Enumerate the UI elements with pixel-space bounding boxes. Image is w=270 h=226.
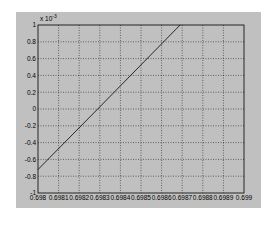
x-tick-label: 0.6983 [90, 194, 110, 201]
x-tick-label: 0.6982 [69, 194, 89, 201]
y-tick-label: -0.6 [25, 156, 37, 163]
y-tick-label: 0.4 [27, 72, 36, 79]
x-tick-label: 0.6986 [152, 194, 172, 201]
y-tick-label: -0.8 [25, 173, 37, 180]
y-tick-label: 0 [32, 105, 36, 112]
x-tick-label: 0.699 [236, 194, 253, 201]
x-tick-label: 0.6988 [193, 194, 213, 201]
grid-lines [38, 25, 244, 193]
y-tick-label: -0.4 [25, 139, 37, 146]
data-line [38, 25, 180, 170]
y-tick-label: 1 [32, 21, 36, 28]
y-tick-label: -0.2 [25, 122, 37, 129]
line-chart: -1-0.8-0.6-0.4-0.200.20.40.60.81 0.6980.… [0, 0, 270, 226]
x-tick-label: 0.6985 [131, 194, 151, 201]
x-axis-ticks: 0.6980.69810.69820.69830.69840.69850.698… [30, 194, 253, 201]
y-axis-ticks: -1-0.8-0.6-0.4-0.200.20.40.60.81 [25, 21, 37, 196]
x-tick-label: 0.6981 [49, 194, 69, 201]
y-scale-label: x 10-3 [40, 13, 57, 22]
x-tick-label: 0.6984 [110, 194, 130, 201]
x-tick-label: 0.6987 [172, 194, 192, 201]
x-tick-label: 0.6989 [213, 194, 233, 201]
y-tick-label: 0.2 [27, 89, 36, 96]
x-tick-label: 0.698 [30, 194, 47, 201]
y-tick-label: 0.6 [27, 55, 36, 62]
y-tick-label: 0.8 [27, 38, 36, 45]
